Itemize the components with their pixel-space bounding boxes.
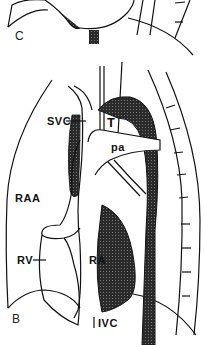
label-t: T [107, 117, 115, 128]
label-svc: SVC [47, 116, 71, 127]
panel-c-drawing [8, 0, 193, 55]
panel-label-c: C [15, 30, 24, 42]
panel-label-b: B [12, 313, 20, 325]
figure-drawing [0, 0, 204, 345]
label-pa: pa [111, 142, 125, 153]
label-raa: RAA [15, 193, 40, 204]
label-ivc: IVC [98, 318, 118, 329]
anatomical-figure: C B SVC T pa RAA RV RA IVC [0, 0, 204, 345]
label-ra: RA [89, 255, 106, 266]
label-rv: RV [17, 255, 33, 266]
